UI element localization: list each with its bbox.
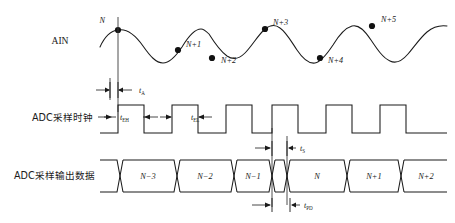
timing-diagram-canvas: N N+1 N+2 N+3 N+4 N+5 AIN: [0, 0, 455, 223]
arrow-right-icon: [265, 203, 271, 208]
data-cell-label: N−1: [244, 172, 260, 181]
arrow-left-icon: [291, 203, 296, 208]
arrow-right-icon: [166, 115, 172, 120]
clock-signal-label: ADC采样时钟: [32, 112, 93, 123]
data-cell-label: N−3: [139, 172, 155, 181]
data-cell-label: N−2: [196, 172, 212, 181]
sample-point-dot-icon: [317, 55, 323, 61]
arrow-right-icon: [265, 146, 271, 151]
sine-waveform: [100, 25, 447, 63]
arrow-right-icon: [105, 88, 110, 93]
t-propagation-label: tPD: [304, 201, 313, 211]
adc-timing-diagram: N N+1 N+2 N+3 N+4 N+5 AIN: [0, 0, 455, 223]
analog-input-label: AIN: [51, 35, 68, 46]
t-eh-label: tEH: [120, 113, 129, 123]
clock-waveform: [100, 105, 447, 133]
t-aperture-annotation: tA: [96, 82, 145, 98]
clock-row: ADC采样时钟 tEH tEL: [32, 105, 447, 133]
arrow-left-icon: [288, 146, 293, 151]
sample-point-dot-icon: [175, 47, 181, 53]
sample-label-n4: N+4: [327, 56, 343, 65]
t-propagation-annotation: tPD: [252, 198, 313, 212]
data-cell-label: N: [313, 172, 320, 181]
sample-point-dot-icon: [209, 55, 215, 61]
data-cell-label: N+1: [365, 172, 381, 181]
sample-label-n5: N+5: [380, 15, 396, 24]
analog-input-row: N N+1 N+2 N+3 N+4 N+5 AIN: [51, 15, 447, 65]
data-cell-label: N+2: [417, 172, 433, 181]
sample-label-n2: N+2: [220, 56, 236, 65]
sample-label-n3: N+3: [272, 18, 288, 27]
sample-label-n: N: [99, 16, 106, 25]
arrow-left-icon: [118, 88, 123, 93]
sample-label-n1: N+1: [185, 40, 201, 49]
sample-point-dot-icon: [369, 23, 375, 29]
t-settling-label: tS: [300, 144, 305, 154]
data-signal-label: ADC采样输出数据: [14, 170, 95, 181]
t-settling-annotation: tS: [255, 141, 305, 156]
arrow-left-icon: [144, 115, 150, 120]
sample-point-dot-icon: [262, 26, 268, 32]
data-output-row: ADC采样输出数据 N−3 N−2 N−1 N N+1 N+2: [14, 160, 447, 192]
t-aperture-label: tA: [139, 86, 145, 96]
